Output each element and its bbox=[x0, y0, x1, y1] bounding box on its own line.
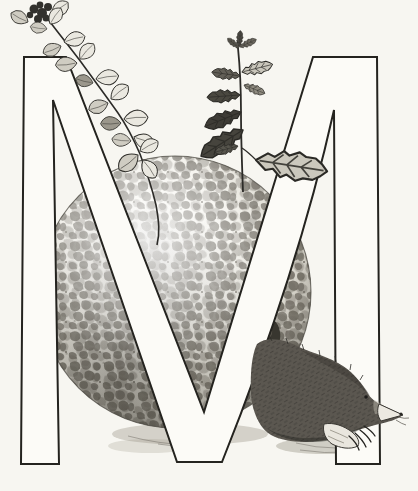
mole-eye bbox=[364, 395, 368, 399]
illustration-canvas: Black-and-white pen illustration: a larg… bbox=[0, 0, 418, 491]
mole-nose bbox=[399, 412, 402, 415]
alphabet-plate-m: Black-and-white pen illustration: a larg… bbox=[0, 0, 418, 491]
